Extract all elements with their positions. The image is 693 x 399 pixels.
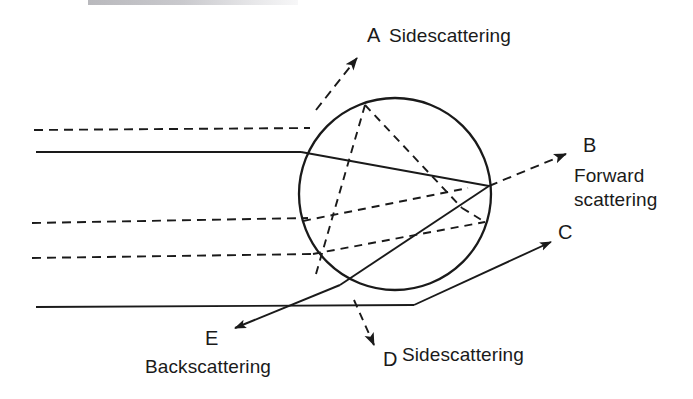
ray-b-forward-scattering (489, 154, 566, 186)
incident-dashed-ray-2 (32, 218, 308, 223)
label-e-text: Backscattering (145, 356, 271, 378)
label-b-text-line1: Forward (574, 165, 644, 187)
label-d-text: Sidescattering (402, 344, 524, 366)
particle-circle (299, 98, 491, 290)
label-a-text: Sidescattering (389, 25, 511, 47)
label-e-letter: E (205, 327, 218, 349)
incident-dashed-ray-1 (34, 128, 310, 130)
internal-dashed-chord-lowerleft-to-right (313, 222, 485, 254)
incident-dashed-ray-3 (32, 254, 313, 258)
ray-c-scattering (414, 242, 551, 305)
ray-a-sidescattering (316, 58, 357, 110)
internal-dashed-chord-short-right (462, 208, 485, 222)
label-b-letter: B (583, 134, 596, 156)
label-a-letter: A (367, 24, 380, 46)
solid-refracted-chord-upper (301, 152, 489, 186)
scattering-diagram-figure: A Sidescattering B Forward scattering C … (0, 0, 693, 399)
label-d-letter: D (383, 348, 398, 370)
ray-d-sidescattering (354, 300, 374, 345)
label-c-letter: C (558, 221, 573, 243)
label-b-text-line2: scattering (574, 189, 657, 211)
